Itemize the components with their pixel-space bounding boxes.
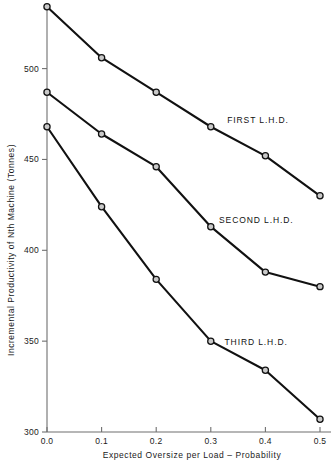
- x-axis-title: Expected Oversize per Load – Probability: [103, 450, 282, 460]
- y-axis-title: Incremental Productivity of Nth Machine …: [6, 144, 16, 356]
- series-annotation-1: SECOND L.H.D.: [219, 215, 294, 225]
- data-point-s0-x0.0: [44, 4, 50, 10]
- y-tick-label-350: 350: [24, 336, 39, 346]
- data-point-s2-x0.2: [153, 276, 159, 282]
- y-tick-label-400: 400: [24, 245, 39, 255]
- data-point-s1-x0.0: [44, 89, 50, 95]
- y-tick-label-300: 300: [24, 427, 39, 437]
- x-tick-label-0.1: 0.1: [95, 436, 108, 446]
- data-point-s1-x0.5: [317, 284, 323, 290]
- data-point-s1-x0.4: [262, 269, 268, 275]
- data-point-s0-x0.2: [153, 89, 159, 95]
- line-chart-canvas: 300350400450500 0.00.10.20.30.40.5 Incre…: [0, 0, 335, 462]
- data-point-s1-x0.3: [208, 224, 214, 230]
- data-point-s2-x0.3: [208, 338, 214, 344]
- data-point-s0-x0.4: [262, 153, 268, 159]
- data-point-s2-x0.4: [262, 367, 268, 373]
- x-tick-label-0.4: 0.4: [259, 436, 272, 446]
- series-annotation-0: FIRST L.H.D.: [227, 115, 289, 125]
- data-point-s1-x0.2: [153, 164, 159, 170]
- data-point-s0-x0.5: [317, 193, 323, 199]
- y-tick-label-500: 500: [24, 64, 39, 74]
- data-point-s0-x0.1: [99, 55, 105, 61]
- x-tick-label-0.0: 0.0: [41, 436, 54, 446]
- data-point-s2-x0.5: [317, 416, 323, 422]
- series-annotation-2: THIRD L.H.D.: [225, 337, 288, 347]
- x-tick-label-0.5: 0.5: [314, 436, 327, 446]
- x-tick-label-0.2: 0.2: [150, 436, 163, 446]
- data-point-s2-x0.1: [99, 204, 105, 210]
- data-point-s1-x0.1: [99, 131, 105, 137]
- chart-figure: 300350400450500 0.00.10.20.30.40.5 Incre…: [0, 0, 335, 462]
- data-point-s0-x0.3: [208, 124, 214, 130]
- x-tick-label-0.3: 0.3: [204, 436, 217, 446]
- data-point-s2-x0.0: [44, 124, 50, 130]
- chart-background: [0, 0, 335, 462]
- y-tick-label-450: 450: [24, 154, 39, 164]
